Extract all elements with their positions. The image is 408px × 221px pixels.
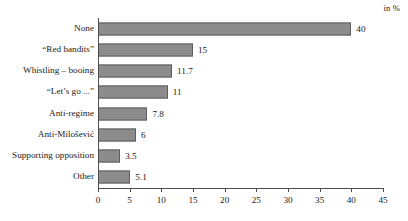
x-axis-tick-label: 40 (347, 196, 356, 205)
x-axis-tick (320, 188, 321, 192)
bar-value-label: 11.7 (177, 67, 193, 76)
category-label: Other (0, 173, 94, 182)
x-axis-tick (130, 188, 131, 192)
bar-row: 40 (98, 22, 366, 35)
x-axis-tick-label: 0 (96, 196, 101, 205)
bar-value-label: 40 (356, 24, 365, 33)
bar (98, 43, 193, 56)
x-axis-tick-label: 45 (378, 196, 387, 205)
x-axis-tick (225, 188, 226, 192)
bar-value-label: 7.8 (152, 109, 163, 118)
bar (98, 107, 147, 120)
bar-row: 11 (98, 86, 182, 99)
x-axis-tick-label: 15 (188, 196, 197, 205)
category-axis: None“Red bandits”Whistling – booing“Let’… (0, 18, 94, 188)
bar (98, 22, 351, 35)
bar-row: 6 (98, 128, 146, 141)
bar-row: 11.7 (98, 65, 193, 78)
x-axis-tick (193, 188, 194, 192)
x-axis-line (98, 188, 384, 189)
category-label: Anti-regime (0, 109, 94, 118)
y-axis-line (98, 18, 99, 188)
bar (98, 65, 172, 78)
x-axis-tick (98, 188, 99, 192)
category-label: “Red bandits” (0, 45, 94, 54)
bar-chart: in % None“Red bandits”Whistling – booing… (0, 0, 408, 221)
x-axis-tick (256, 188, 257, 192)
bar (98, 150, 120, 163)
x-axis-tick-label: 10 (157, 196, 166, 205)
bar-value-label: 3.5 (125, 152, 136, 161)
category-label: None (0, 24, 94, 33)
x-axis-tick-label: 25 (252, 196, 261, 205)
bar (98, 128, 136, 141)
x-axis-tick (351, 188, 352, 192)
bar-value-label: 6 (141, 130, 146, 139)
bar-row: 15 (98, 43, 207, 56)
bar-row: 3.5 (98, 150, 137, 163)
bar-row: 7.8 (98, 107, 164, 120)
x-axis-tick (383, 188, 384, 192)
unit-annotation: in % (383, 3, 400, 13)
bar (98, 86, 168, 99)
x-axis-tick (288, 188, 289, 192)
plot-area: 401511.7117.863.55.1 (98, 18, 383, 188)
x-axis-tick-label: 20 (220, 196, 229, 205)
bar-value-label: 11 (173, 88, 182, 97)
bar (98, 171, 130, 184)
category-label: Whistling – booing (0, 67, 94, 76)
bar-value-label: 15 (198, 45, 207, 54)
x-axis-tick-label: 5 (127, 196, 132, 205)
x-axis-tick (161, 188, 162, 192)
category-label: Supporting opposition (0, 152, 94, 161)
x-axis-tick-label: 30 (283, 196, 292, 205)
category-label: Anti-Milošević (0, 130, 94, 139)
x-axis-tick-label: 35 (315, 196, 324, 205)
bar-value-label: 5.1 (135, 173, 146, 182)
category-label: “Let’s go ...” (0, 88, 94, 97)
bar-row: 5.1 (98, 171, 147, 184)
